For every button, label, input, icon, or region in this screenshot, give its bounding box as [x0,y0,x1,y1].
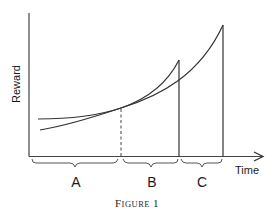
interval-label-b: B [147,174,156,190]
caption-number: 1 [153,197,159,209]
caption-small-caps: IGURE [122,199,150,209]
x-axis-label: Time [235,164,259,176]
reward-time-diagram: A B C Time Reward FIGURE1 [0,0,275,213]
interval-label-a: A [71,174,81,190]
brace-interval-a [32,159,118,167]
caption-prefix: F [115,197,122,209]
brace-interval-c [181,159,222,167]
brace-interval-b [123,159,178,167]
interval-label-c: C [197,174,207,190]
figure-caption: FIGURE1 [115,197,159,209]
y-axis-label: Reward [10,65,22,103]
figure-1: A B C Time Reward FIGURE1 [0,0,275,213]
smaller-sooner-reward-curve [40,60,179,130]
